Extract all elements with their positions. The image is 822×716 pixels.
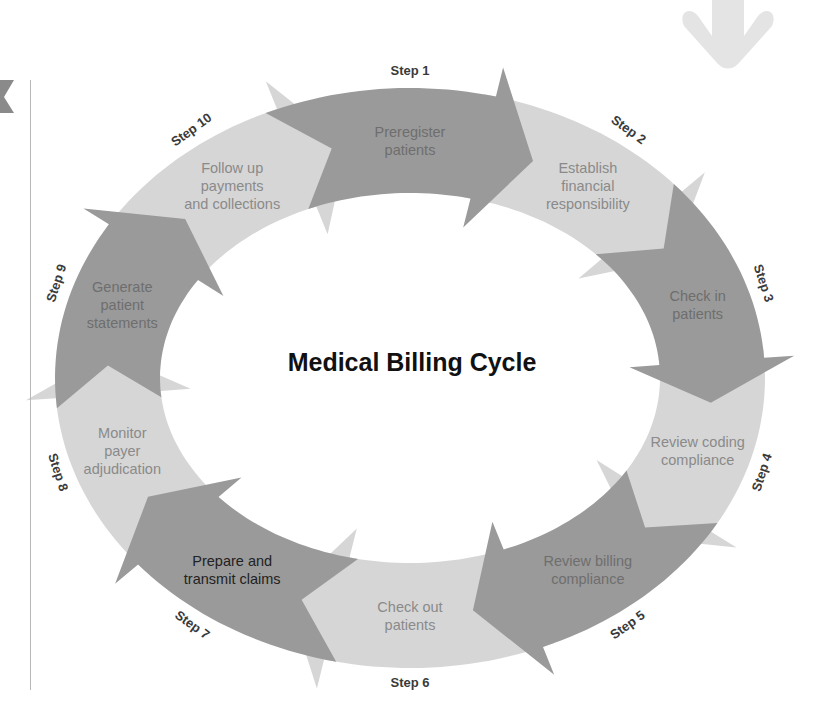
diagram-title: Medical Billing Cycle [288, 348, 537, 376]
step-9-label: Step 9 [43, 262, 69, 304]
step-8-label: Step 8 [45, 451, 71, 493]
step-6-label: Step 6 [390, 675, 429, 690]
faint-down-arrow-icon [682, 0, 773, 69]
step-4-label: Step 4 [749, 451, 776, 493]
partial-chevron-icon [0, 80, 14, 113]
cycle-diagram-svg: PreregisterpatientsEstablishfinancialres… [0, 0, 822, 716]
step-3-label: Step 3 [751, 262, 777, 304]
page-margin-rule [30, 80, 31, 690]
cycle-segments [26, 68, 794, 689]
step-1-label: Step 1 [390, 63, 429, 78]
medical-billing-cycle-diagram: PreregisterpatientsEstablishfinancialres… [0, 0, 822, 716]
